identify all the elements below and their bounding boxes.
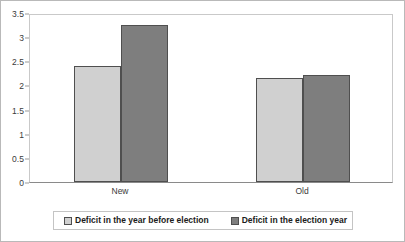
bar-old-series-2	[303, 75, 350, 182]
y-axis-tick-label: 2	[19, 82, 24, 91]
y-axis: 00.511.522.533.5	[1, 14, 29, 183]
y-axis-tick-label: 3.5	[12, 10, 24, 19]
chart-legend: Deficit in the year before election Defi…	[53, 211, 353, 230]
legend-label: Deficit in the election year	[242, 216, 347, 225]
plot-area	[29, 14, 393, 183]
legend-swatch-icon	[64, 217, 72, 225]
bar-old-series-1	[256, 78, 303, 182]
legend-swatch-icon	[231, 217, 239, 225]
x-axis-label-new: New	[111, 187, 128, 196]
bar-chart-figure: 00.511.522.533.5 NewOld Deficit in the y…	[0, 0, 405, 242]
y-axis-tick-label: 1	[19, 130, 24, 139]
x-axis-label-old: Old	[295, 187, 308, 196]
bar-new-series-1	[74, 66, 121, 182]
y-axis-tick-label: 0	[19, 179, 24, 188]
legend-label: Deficit in the year before election	[75, 216, 209, 225]
bar-new-series-2	[121, 25, 168, 182]
y-axis-tick-label: 0.5	[12, 155, 24, 164]
legend-item-deficit-year-before: Deficit in the year before election	[64, 216, 209, 225]
legend-item-deficit-election-year: Deficit in the election year	[231, 216, 347, 225]
y-axis-tick-label: 1.5	[12, 106, 24, 115]
x-axis: NewOld	[29, 184, 393, 200]
y-axis-tick-label: 3	[19, 34, 24, 43]
y-axis-tick-label: 2.5	[12, 58, 24, 67]
